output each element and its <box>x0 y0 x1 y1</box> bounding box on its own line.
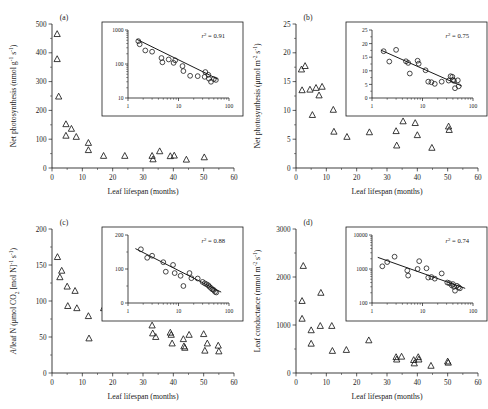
x-tick-label: 30 <box>383 174 391 182</box>
x-tick-label: 60 <box>230 379 238 387</box>
data-point-triangle <box>186 331 192 337</box>
data-point-triangle <box>216 348 222 354</box>
x-tick-label: 50 <box>444 379 452 387</box>
panel-b-plot: 01020304050600510152025(b)Leaf lifespan … <box>244 0 488 204</box>
x-tick-label: 0 <box>294 174 298 182</box>
inset-x-tick-label: 10 <box>176 103 182 109</box>
data-point-triangle <box>149 322 155 328</box>
y-axis-title: Leaf conductance (mmol m-2 s-1) <box>252 249 262 352</box>
data-point-triangle <box>307 86 313 92</box>
x-tick-label: 30 <box>139 174 147 182</box>
x-tick-label: 50 <box>200 379 208 387</box>
data-point-triangle <box>412 120 418 126</box>
data-point-triangle <box>329 323 335 329</box>
x-tick-label: 0 <box>50 174 54 182</box>
data-point-triangle <box>414 132 420 138</box>
data-point-triangle <box>85 313 91 319</box>
data-point-triangle <box>300 263 306 269</box>
y-tick-label: 5 <box>287 136 291 144</box>
data-point-triangle <box>366 129 372 135</box>
x-tick-label: 40 <box>414 379 422 387</box>
data-point-triangle <box>309 112 315 118</box>
inset-x-tick-label: 100 <box>225 103 234 109</box>
inset-y-tick-label: 0 <box>121 300 124 306</box>
x-tick-label: 50 <box>200 174 208 182</box>
data-point-triangle <box>85 140 91 146</box>
inset-x-tick-label: 100 <box>469 308 478 314</box>
data-point-triangle <box>201 331 207 337</box>
inset-x-tick-label: 1 <box>127 308 130 314</box>
x-tick-label: 10 <box>79 174 87 182</box>
x-tick-label: 40 <box>414 174 422 182</box>
inset-y-tick-label: 20 <box>362 41 368 47</box>
data-point-triangle <box>54 31 60 37</box>
data-point-triangle <box>204 340 210 346</box>
data-point-triangle <box>344 134 350 140</box>
panel-label: (d) <box>304 218 313 227</box>
inset-y-tick-label: 100 <box>359 300 368 306</box>
y-tick-label: 25 <box>283 21 291 29</box>
x-tick-label: 20 <box>353 379 361 387</box>
inset-y-tick-label: 15 <box>362 54 368 60</box>
x-tick-label: 30 <box>383 379 391 387</box>
data-point-triangle <box>313 85 319 91</box>
panel-c-plot: 0102030405060050100150200(c)Leaf lifespa… <box>0 205 244 409</box>
inset-y-tick-label: 1000 <box>112 27 123 33</box>
inset-x-tick-label: 10 <box>420 103 426 109</box>
x-axis-title: Leaf lifespan (months) <box>351 392 422 401</box>
y-tick-label: 1000 <box>276 322 291 330</box>
y-tick-label: 500 <box>36 21 47 29</box>
y-tick-label: 0 <box>43 165 47 173</box>
y-tick-label: 0 <box>287 370 291 378</box>
x-tick-label: 20 <box>109 174 117 182</box>
panel-a-plot: 01020304050600100200300400500(a)Leaf lif… <box>0 0 244 204</box>
data-point-triangle <box>73 134 79 140</box>
inset-y-tick-label: 5 <box>365 82 368 88</box>
data-point-triangle <box>298 66 304 72</box>
data-point-triangle <box>57 274 63 280</box>
x-tick-label: 40 <box>170 379 178 387</box>
y-axis-title: Net photosynthesis (μmol m-2 s-1) <box>252 43 262 148</box>
y-tick-label: 0 <box>43 370 47 378</box>
panel-label: (c) <box>60 218 69 227</box>
x-tick-label: 10 <box>79 379 87 387</box>
data-point-triangle <box>171 152 177 158</box>
data-point-triangle <box>122 153 128 159</box>
x-axis-title: Leaf lifespan (months) <box>107 392 178 401</box>
data-point-triangle <box>86 335 92 341</box>
x-tick-label: 0 <box>294 379 298 387</box>
data-point-triangle <box>318 289 324 295</box>
panel-c: 0102030405060050100150200(c)Leaf lifespa… <box>0 205 244 409</box>
data-point-triangle <box>398 353 404 359</box>
data-point-triangle <box>100 153 106 159</box>
y-tick-label: 3000 <box>276 226 291 234</box>
data-point-triangle <box>428 362 434 368</box>
y-tick-label: 15 <box>283 78 291 86</box>
data-point-triangle <box>299 298 305 304</box>
data-point-triangle <box>343 347 349 353</box>
inset-y-tick-label: 25 <box>362 27 368 33</box>
x-tick-label: 50 <box>444 174 452 182</box>
panel-b: 01020304050600510152025(b)Leaf lifespan … <box>244 0 488 204</box>
x-tick-label: 20 <box>353 174 361 182</box>
data-point-triangle <box>299 315 305 321</box>
data-point-triangle <box>308 340 314 346</box>
data-point-triangle <box>65 303 71 309</box>
inset-x-tick-label: 1 <box>127 103 130 109</box>
y-axis-title: Net photosynthesis (nmol g-1 s-1) <box>8 44 18 147</box>
x-tick-label: 0 <box>50 379 54 387</box>
data-point-triangle <box>150 156 156 162</box>
data-point-triangle <box>201 154 207 160</box>
data-point-triangle <box>54 254 60 260</box>
data-point-triangle <box>180 336 186 342</box>
y-tick-label: 100 <box>36 298 47 306</box>
inset-x-tick-label: 1 <box>371 308 374 314</box>
data-point-triangle <box>54 56 60 62</box>
data-point-triangle <box>400 118 406 124</box>
data-point-triangle <box>330 106 336 112</box>
inset-x-tick-label: 1 <box>371 103 374 109</box>
panel-d: 01020304050600100020003000(d)Leaf lifesp… <box>244 205 488 409</box>
inset-y-tick-label: 1000 <box>356 266 367 272</box>
inset-y-tick-label: 100 <box>115 61 124 67</box>
data-point-triangle <box>202 347 208 353</box>
